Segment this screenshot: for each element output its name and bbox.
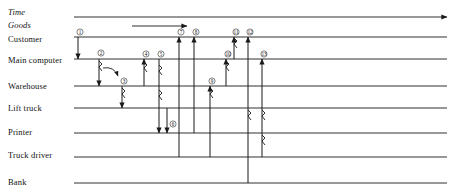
svg-text:10: 10 (225, 51, 231, 57)
svg-text:5: 5 (160, 51, 163, 57)
svg-text:7: 7 (180, 29, 183, 35)
svg-text:13: 13 (261, 51, 267, 57)
step-marker-4: 4 (143, 51, 149, 57)
svg-text:4: 4 (145, 51, 148, 57)
step-marker-12: 12 (247, 29, 253, 35)
step-marker-6: 6 (170, 121, 176, 127)
svg-text:12: 12 (247, 29, 253, 35)
step-marker-2: 2 (98, 50, 104, 56)
svg-text:3: 3 (123, 78, 126, 84)
curved-handoff-arrow (103, 68, 118, 76)
step-marker-8: 8 (193, 29, 199, 35)
sequence-diagram-svg: 12345678910111213 (0, 0, 474, 196)
step-marker-1: 1 (77, 29, 83, 35)
svg-text:8: 8 (195, 29, 198, 35)
svg-text:6: 6 (172, 121, 175, 127)
step-marker-3: 3 (121, 78, 127, 84)
step-marker-13: 13 (261, 51, 267, 57)
lane-lines-group (74, 37, 447, 183)
step-marker-10: 10 (225, 51, 231, 57)
activity-glyphs-group (99, 38, 265, 145)
step-marker-5: 5 (158, 51, 164, 57)
step-marker-11: 11 (233, 29, 239, 35)
step-markers-group: 12345678910111213 (77, 29, 267, 127)
svg-text:2: 2 (100, 50, 103, 56)
svg-text:11: 11 (234, 29, 239, 35)
axis-lines-group (74, 17, 447, 26)
step-marker-7: 7 (178, 29, 184, 35)
svg-text:1: 1 (79, 29, 82, 35)
svg-text:9: 9 (211, 78, 214, 84)
diagram-canvas: TimeGoodsCustomerMain computerWarehouseL… (0, 0, 474, 196)
step-marker-9: 9 (209, 78, 215, 84)
